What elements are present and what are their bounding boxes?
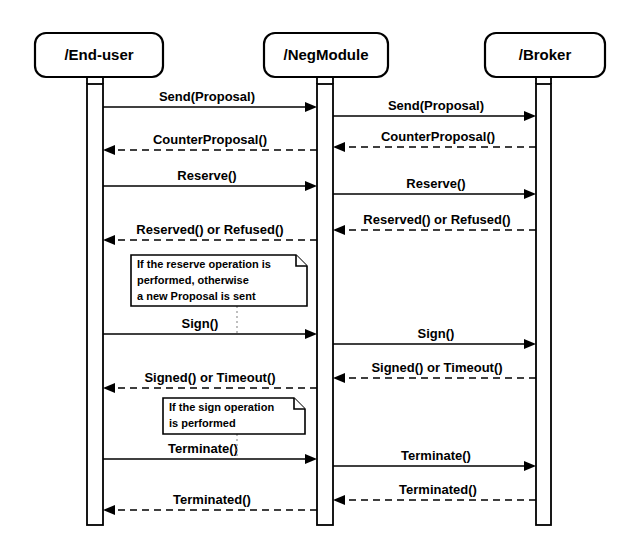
diagram-svg: /End-user /NegModule /Broker Send(: [0, 0, 635, 557]
message-m10[interactable]: Sign(): [333, 326, 536, 349]
message-label-m4: CounterProposal(): [381, 129, 495, 144]
message-m1[interactable]: Send(Proposal): [103, 89, 317, 112]
note-line-1: If the sign operation: [169, 401, 274, 413]
arrowhead-right-icon: [524, 461, 536, 471]
note-fold-icon: [294, 398, 305, 409]
message-label-m5: Reserve(): [177, 168, 236, 183]
arrowhead-left-icon: [333, 495, 345, 505]
message-m13[interactable]: Terminate(): [103, 441, 317, 464]
message-label-m15: Terminated(): [173, 492, 251, 507]
note-line-2: is performed: [169, 417, 236, 429]
message-m14[interactable]: Terminate(): [333, 448, 536, 471]
message-m6[interactable]: Reserve(): [333, 176, 536, 199]
message-label-m6: Reserve(): [406, 176, 465, 191]
arrowhead-left-icon: [333, 142, 345, 152]
arrowhead-left-icon: [103, 383, 115, 393]
sequence-diagram-canvas: /End-user /NegModule /Broker Send(: [0, 0, 635, 557]
note-reserve[interactable]: If the reserve operation is performed, o…: [131, 255, 307, 334]
note-line-3: a new Proposal is sent: [137, 290, 256, 302]
message-m2[interactable]: Send(Proposal): [333, 98, 536, 121]
message-label-m13: Terminate(): [168, 441, 238, 456]
message-label-m10: Sign(): [418, 326, 455, 341]
arrowhead-left-icon: [103, 145, 115, 155]
message-label-m11: Signed() or Timeout(): [144, 370, 275, 385]
lifeline-label-end-user: /End-user: [64, 46, 133, 63]
message-label-m8: Reserved() or Refused(): [363, 212, 510, 227]
note-fold-icon: [296, 255, 307, 266]
lifeline-head-negmodule[interactable]: /NegModule: [264, 33, 388, 77]
message-label-m7: Reserved() or Refused(): [136, 222, 283, 237]
arrowhead-right-icon: [524, 339, 536, 349]
message-label-m16: Terminated(): [399, 482, 477, 497]
activation-bar-negmodule: [317, 77, 333, 525]
message-label-m2: Send(Proposal): [388, 98, 484, 113]
note-line-1: If the reserve operation is: [137, 258, 271, 270]
message-m8[interactable]: Reserved() or Refused(): [333, 212, 536, 235]
activation-rect-broker: [536, 84, 551, 525]
message-m4[interactable]: CounterProposal(): [333, 129, 536, 152]
activation-rect-end-user: [87, 84, 103, 525]
arrowhead-left-icon: [103, 235, 115, 245]
lifeline-head-broker[interactable]: /Broker: [485, 33, 605, 77]
message-m12[interactable]: Signed() or Timeout(): [333, 360, 536, 383]
arrowhead-right-icon: [305, 181, 317, 191]
activation-rect-negmodule: [317, 84, 333, 525]
arrowhead-left-icon: [333, 225, 345, 235]
note-line-2: performed, otherwise: [137, 274, 249, 286]
message-m7[interactable]: Reserved() or Refused(): [103, 222, 317, 245]
message-label-m14: Terminate(): [401, 448, 471, 463]
message-label-m1: Send(Proposal): [159, 89, 255, 104]
arrowhead-left-icon: [103, 505, 115, 515]
arrowhead-right-icon: [305, 454, 317, 464]
lifeline-label-broker: /Broker: [519, 46, 572, 63]
activation-bar-end-user: [87, 77, 103, 525]
message-m11[interactable]: Signed() or Timeout(): [103, 370, 317, 393]
lifeline-label-negmodule: /NegModule: [284, 46, 369, 63]
message-m5[interactable]: Reserve(): [103, 168, 317, 191]
message-m9[interactable]: Sign(): [103, 316, 317, 339]
message-label-m9: Sign(): [182, 316, 219, 331]
arrowhead-left-icon: [333, 373, 345, 383]
message-m3[interactable]: CounterProposal(): [103, 132, 317, 155]
arrowhead-right-icon: [305, 102, 317, 112]
arrowhead-right-icon: [524, 111, 536, 121]
lifeline-head-end-user[interactable]: /End-user: [35, 33, 163, 77]
message-label-m3: CounterProposal(): [153, 132, 267, 147]
message-label-m12: Signed() or Timeout(): [371, 360, 502, 375]
arrowhead-right-icon: [305, 329, 317, 339]
message-m15[interactable]: Terminated(): [103, 492, 317, 515]
activation-bar-broker: [536, 77, 551, 525]
message-m16[interactable]: Terminated(): [333, 482, 536, 505]
arrowhead-right-icon: [524, 189, 536, 199]
